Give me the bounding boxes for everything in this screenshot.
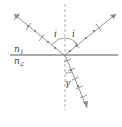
reflected-angle-label: i [72, 29, 75, 39]
incident-angle-arc [52, 38, 65, 45]
incident-angle-label: i [54, 29, 57, 39]
medium-bottom-subscript: 2 [19, 60, 24, 67]
refracted-arrow-icon [83, 101, 88, 108]
refracted-angle-arc [65, 72, 72, 73]
optics-diagram: i i γ n 1 n 2 [0, 0, 122, 127]
refracted-angle-label: γ [65, 78, 71, 88]
medium-top-subscript: 1 [20, 48, 24, 55]
